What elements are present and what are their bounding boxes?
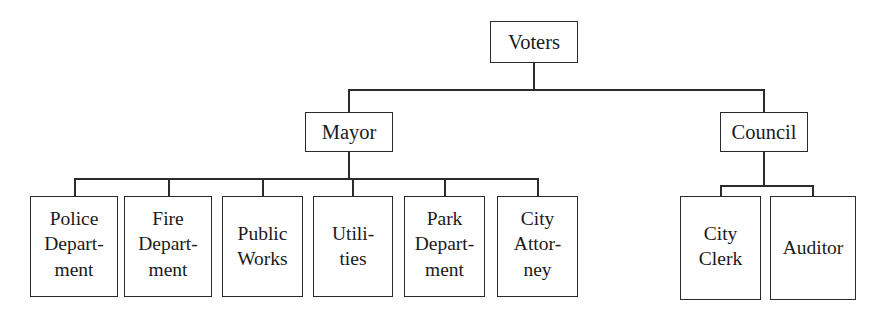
node-public-works[interactable]: Public Works (222, 196, 303, 297)
node-mayor[interactable]: Mayor (305, 112, 393, 152)
node-mayor-label: Mayor (322, 119, 377, 146)
connector-to-public-works (262, 178, 264, 197)
node-park-department-label: Park Depart- ment (405, 206, 484, 282)
connector-to-utilities (352, 178, 354, 197)
node-fire-department-label: Fire Depart- ment (125, 206, 211, 282)
node-park-department[interactable]: Park Depart- ment (404, 196, 485, 297)
node-city-attorney-label: City Attor- ney (498, 206, 577, 282)
node-city-attorney[interactable]: City Attor- ney (497, 196, 578, 297)
connector-level1-bar (348, 89, 765, 91)
connector-to-fire (168, 178, 170, 197)
node-utilities[interactable]: Utili- ties (313, 196, 393, 297)
node-voters[interactable]: Voters (490, 21, 578, 63)
connector-to-police (74, 178, 76, 197)
connector-to-mayor (348, 89, 350, 113)
node-city-clerk-label: City Clerk (681, 221, 760, 272)
node-utilities-label: Utili- ties (314, 221, 392, 272)
node-police-department[interactable]: Police Depart- ment (30, 196, 118, 297)
node-public-works-label: Public Works (223, 221, 302, 272)
node-fire-department[interactable]: Fire Depart- ment (124, 196, 212, 297)
node-auditor[interactable]: Auditor (770, 196, 856, 300)
connector-council-stem (763, 151, 765, 186)
node-voters-label: Voters (508, 29, 560, 56)
connector-to-council (763, 89, 765, 113)
node-council-label: Council (732, 119, 797, 146)
node-council[interactable]: Council (720, 112, 808, 152)
connector-voters-stem (533, 62, 535, 90)
node-city-clerk[interactable]: City Clerk (680, 196, 761, 300)
connector-to-city-attorney (537, 178, 539, 197)
node-police-department-label: Police Depart- ment (31, 206, 117, 282)
node-auditor-label: Auditor (783, 235, 844, 260)
connector-council-children-bar (720, 185, 813, 187)
connector-to-park (444, 178, 446, 197)
org-chart: Voters Mayor Council Police Depart- ment… (0, 0, 882, 323)
connector-mayor-children-bar (74, 178, 538, 180)
connector-mayor-stem (348, 151, 350, 179)
